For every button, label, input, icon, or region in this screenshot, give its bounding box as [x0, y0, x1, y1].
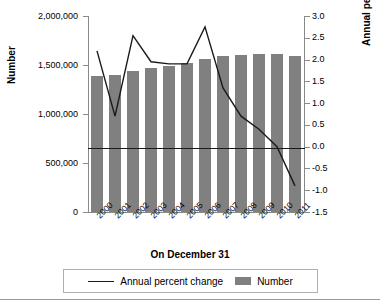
- right-tick-label: -1.0: [312, 186, 328, 195]
- right-tick-mark: [305, 16, 310, 17]
- right-tick-mark: [305, 190, 310, 191]
- right-tick-mark: [305, 81, 310, 82]
- left-tick-label: 1,500,000: [38, 61, 78, 70]
- legend-label-annual-percent-change: Annual percent change: [120, 276, 223, 287]
- right-tick-label: 3.0: [312, 12, 325, 21]
- chart-figure: 0500,0001,000,0001,500,0002,000,000 -1.5…: [0, 0, 380, 306]
- legend-item-number: Number: [235, 276, 293, 287]
- right-tick-label: 1.5: [312, 77, 325, 86]
- x-axis-tick-labels: 2000200120022003200420052006200720082009…: [88, 214, 304, 248]
- left-axis-title: Number: [6, 46, 17, 84]
- line-series-svg: [88, 16, 304, 212]
- left-tick-label: 500,000: [45, 159, 78, 168]
- right-tick-label: 2.0: [312, 55, 325, 64]
- right-axis-line: [304, 16, 305, 212]
- right-tick-mark: [305, 125, 310, 126]
- right-tick-label: 0.0: [312, 142, 325, 151]
- legend-label-number: Number: [257, 276, 293, 287]
- right-tick-mark: [305, 60, 310, 61]
- right-tick-label: 1.0: [312, 99, 325, 108]
- chart-legend: Annual percent change Number: [63, 269, 318, 293]
- line-series-annual-percent-change: [88, 16, 304, 212]
- line-path: [97, 27, 295, 186]
- right-axis-title: Annual percent change: [361, 0, 372, 46]
- legend-line-marker-icon: [88, 281, 114, 282]
- legend-swatch-marker-icon: [235, 277, 251, 285]
- right-tick-mark: [305, 103, 310, 104]
- right-tick-mark: [305, 38, 310, 39]
- left-tick-label: 0: [73, 208, 78, 217]
- left-tick-label: 2,000,000: [38, 12, 78, 21]
- right-tick-label: 2.5: [312, 33, 325, 42]
- footer-rule: [0, 299, 380, 300]
- right-tick-label: -1.5: [312, 208, 328, 217]
- left-tick-label: 1,000,000: [38, 110, 78, 119]
- left-tick-mark: [83, 212, 88, 213]
- x-axis-title: On December 31: [0, 249, 380, 260]
- right-tick-label: -0.5: [312, 164, 328, 173]
- right-tick-mark: [305, 168, 310, 169]
- right-tick-mark: [305, 147, 310, 148]
- legend-item-annual-percent-change: Annual percent change: [88, 276, 223, 287]
- right-tick-label: 0.5: [312, 120, 325, 129]
